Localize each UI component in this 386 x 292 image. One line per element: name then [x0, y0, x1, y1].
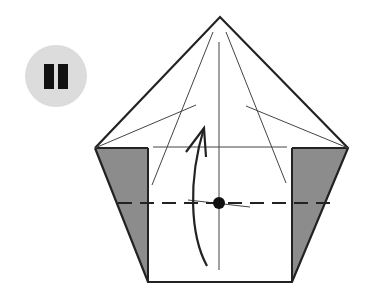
origami-diagram	[0, 0, 386, 292]
right-corner-crease	[246, 106, 348, 148]
pivot-dot	[213, 197, 225, 209]
